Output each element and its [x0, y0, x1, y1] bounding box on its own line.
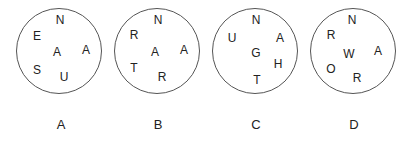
letter-lower-right: H — [272, 58, 284, 70]
option-label-a: A — [51, 118, 71, 131]
letter-center: G — [250, 47, 262, 59]
letter-upper-left: U — [226, 32, 238, 44]
letter-upper-left: R — [128, 29, 140, 41]
letter-upper-left: R — [325, 29, 337, 41]
letter-center: W — [343, 48, 355, 60]
option-label-c: C — [246, 118, 266, 131]
letter-top: N — [250, 14, 262, 26]
letter-right: A — [372, 45, 384, 57]
letter-upper-left: E — [31, 30, 43, 42]
letter-bottom: R — [351, 72, 363, 84]
option-label-d: D — [344, 118, 364, 131]
letter-right: A — [80, 44, 92, 56]
letter-lower-left: T — [128, 62, 140, 74]
letter-right: A — [178, 44, 190, 56]
letter-bottom: R — [156, 71, 168, 83]
letter-lower-left: S — [31, 64, 43, 76]
letter-lower-left: O — [325, 63, 337, 75]
letter-bottom: T — [251, 74, 263, 86]
letter-upper-right: A — [274, 32, 286, 44]
letter-top: N — [54, 14, 66, 26]
letter-circle-puzzle: N E A A S U A N R A A T R B N U A G H T … — [0, 0, 411, 143]
letter-center: A — [51, 46, 63, 58]
letter-top: N — [152, 14, 164, 26]
letter-bottom: U — [58, 71, 70, 83]
letter-top: N — [346, 14, 358, 26]
option-label-b: B — [148, 118, 168, 131]
letter-center: A — [149, 46, 161, 58]
